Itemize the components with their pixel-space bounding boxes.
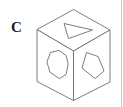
figure-container: C xyxy=(0,0,123,107)
cube-illustration xyxy=(0,0,123,107)
